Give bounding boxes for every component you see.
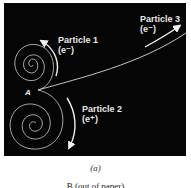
particle-2-label: Particle 2 (e⁺) <box>82 104 122 124</box>
particle-2-track <box>10 90 63 149</box>
particle-2-name: Particle 2 <box>82 104 122 114</box>
particle-2-charge: (e⁺) <box>82 114 122 124</box>
particle-2-arrow <box>67 98 75 146</box>
particle-1-charge: (e⁻) <box>58 45 98 55</box>
particle-1-arrow <box>43 42 57 76</box>
point-a-label: A <box>25 88 31 97</box>
particle-1-name: Particle 1 <box>58 35 98 45</box>
particle-3-charge: (e⁻) <box>140 24 180 34</box>
particle-1-label: Particle 1 (e⁻) <box>58 35 98 55</box>
figure-caption: (a) <box>0 163 191 173</box>
particle-1-track <box>15 44 54 90</box>
particle-3-name: Particle 3 <box>140 14 180 24</box>
particle-3-label: Particle 3 (e⁻) <box>140 14 180 34</box>
magnetic-field-label: B (out of paper) <box>0 181 191 188</box>
